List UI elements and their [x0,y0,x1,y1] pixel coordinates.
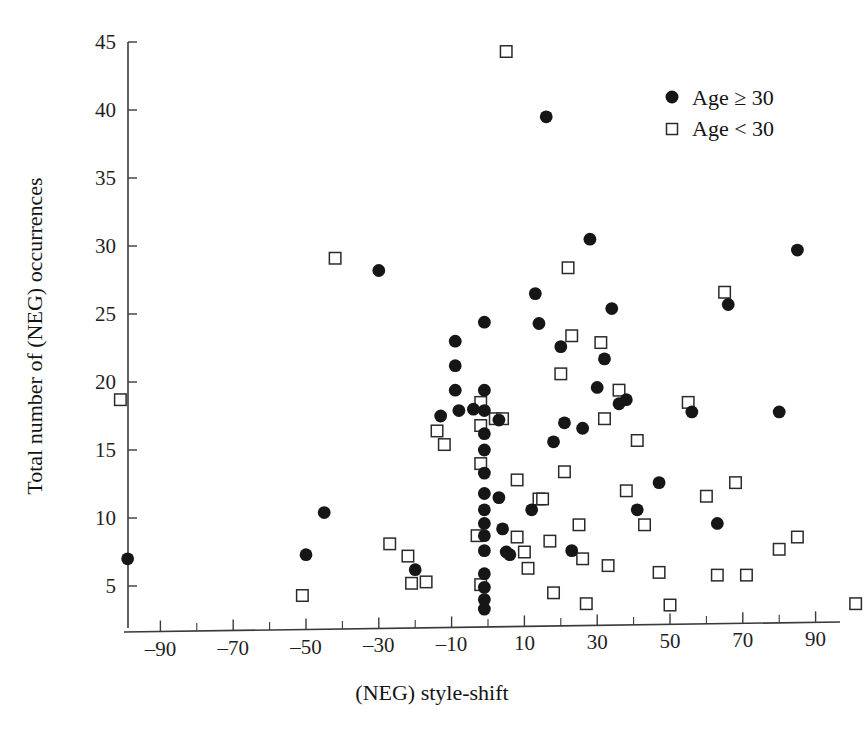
y-axis-tick-labels: 51015202530354045 [95,30,116,598]
data-point [372,264,385,277]
data-point [565,544,578,557]
legend-label-age-under-30: Age < 30 [692,116,774,141]
data-point [402,550,414,562]
data-point [478,529,491,542]
data-point [478,404,491,417]
data-point [478,544,491,557]
x-tick-label--10: –10 [435,632,468,656]
y-tick-label-10: 10 [95,506,116,530]
data-point [562,262,574,274]
data-point [730,477,742,489]
y-tick-label-45: 45 [95,30,116,54]
data-point [621,485,633,497]
data-point [605,302,618,315]
data-point [522,563,534,575]
data-point [467,403,480,416]
data-point [547,435,560,448]
data-point [653,567,665,579]
data-point [544,535,556,547]
data-point [559,466,571,478]
data-point [478,316,491,329]
data-point [573,519,585,531]
data-point [631,435,643,447]
legend: Age ≥ 30 Age < 30 [666,85,775,141]
data-point [537,493,549,505]
data-point [449,384,462,397]
y-tick-label-15: 15 [95,438,116,462]
data-point [478,487,491,500]
data-point [595,337,607,349]
data-point [329,252,341,263]
data-point [584,233,597,246]
data-point [591,381,604,394]
legend-label-age-30-plus: Age ≥ 30 [692,85,774,110]
legend-marker-open-square-icon [667,124,678,135]
x-tick-label-30: 30 [587,630,608,654]
y-axis-title: Total number of (NEG) occurrences [22,177,47,494]
data-point [409,563,422,576]
data-point [478,503,491,516]
data-point [554,340,567,353]
data-point [519,546,531,558]
data-point [850,598,862,610]
x-tick-label-50: 50 [660,629,681,653]
data-point [791,244,804,257]
y-tick-label-40: 40 [95,98,116,122]
data-point [598,352,611,365]
legend-marker-filled-circle-icon [666,91,679,104]
data-point [478,444,491,457]
data-point [478,517,491,530]
data-point [452,404,465,417]
data-point [525,503,538,516]
data-point [384,538,396,550]
data-point [297,590,309,602]
data-point [420,576,432,588]
data-point [639,519,651,531]
data-point [431,425,443,437]
data-point [685,406,698,419]
data-point [664,599,676,611]
x-tick-label--30: –30 [362,633,395,657]
data-point [478,603,491,616]
scatter-plot: 51015202530354045 –90–70–50–30–101030507… [0,0,864,745]
data-point [511,531,523,543]
data-point [493,414,506,427]
data-point [576,422,589,435]
data-point [439,439,451,451]
y-tick-label-30: 30 [95,234,116,258]
y-tick-label-20: 20 [95,370,116,394]
x-axis-tick-labels: –90–70–50–30–101030507090 [144,627,826,660]
data-point [496,522,509,535]
data-point [548,587,560,599]
figure-container: 51015202530354045 –90–70–50–30–101030507… [0,0,864,745]
figure-caption [0,733,864,745]
data-point [503,548,516,561]
data-point [701,490,713,502]
data-point [558,416,571,429]
data-point [300,548,313,561]
data-point [115,394,127,406]
data-point [722,298,735,311]
data-point [555,368,567,380]
data-point [581,598,593,610]
x-tick-label--50: –50 [289,635,322,659]
data-point [478,384,491,397]
data-point [631,503,644,516]
data-point [792,531,804,543]
data-point [493,491,506,504]
data-point [773,406,786,419]
x-axis-title: (NEG) style-shift [355,680,508,705]
data-point [741,569,753,581]
x-tick-label-10: 10 [514,631,535,655]
data-point [529,287,542,300]
data-point [318,506,331,519]
data-point [712,569,724,581]
data-point [599,413,611,425]
data-point [449,335,462,348]
y-axis-ticks [128,42,137,586]
y-tick-label-35: 35 [95,166,116,190]
data-point [478,427,491,440]
data-point [577,553,589,565]
data-point [478,467,491,480]
data-point [406,578,418,590]
